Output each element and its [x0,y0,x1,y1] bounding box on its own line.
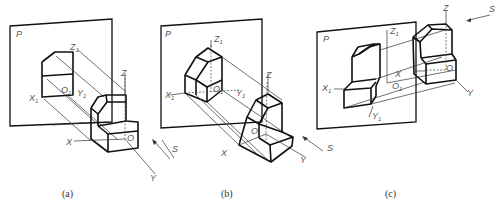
panel-b: P Z1 O1 Y1 X1 [161,19,333,165]
svg-text:S: S [489,4,495,14]
svg-text:Z1: Z1 [389,26,399,37]
caption-b: (b) [221,188,233,199]
svg-text:X1: X1 [28,93,38,104]
svg-text:O: O [446,63,453,73]
caption-c: (c) [385,188,396,199]
svg-text:Y1: Y1 [77,88,86,99]
direction-arrow-b [305,138,323,151]
projection-plane-b [161,19,262,128]
svg-text:O: O [127,133,134,143]
y-axis-a [125,139,155,174]
svg-text:Z1: Z1 [69,42,79,53]
plane-label-a: P [16,29,22,39]
direction-arrow-a [154,141,170,159]
svg-text:X1: X1 [164,90,174,101]
svg-text:X: X [220,148,228,158]
x-axis-a [74,139,125,141]
panel-c: P Z1 O1 Y1 X1 [317,3,495,129]
svg-text:Y1: Y1 [372,111,381,122]
object-3d-b [239,82,293,162]
svg-text:Z: Z [442,3,449,13]
projection-diagram: P Z1 O1 Y1 X1 [0,0,498,207]
svg-text:S: S [172,144,178,154]
svg-text:Z: Z [265,70,272,80]
svg-text:P: P [323,34,329,44]
svg-text:Z: Z [120,68,127,78]
svg-text:Z1: Z1 [213,34,223,45]
svg-text:X: X [394,69,402,79]
panel-a: P Z1 O1 Y1 X1 [10,19,170,183]
svg-text:O: O [251,126,258,136]
svg-text:Y1: Y1 [236,88,245,99]
projection-plane-c [317,22,416,129]
svg-text:X: X [65,137,73,147]
svg-text:Y: Y [467,88,474,98]
svg-text:Y: Y [300,155,307,165]
projection-plane-a [10,19,112,126]
svg-text:Y: Y [150,173,157,183]
y-axis-b [266,134,305,157]
svg-text:X1: X1 [321,83,331,94]
svg-text:S: S [327,143,333,153]
svg-text:O1: O1 [392,81,402,92]
caption-a: (a) [62,188,73,199]
direction-arrow-c [469,15,490,20]
svg-text:P: P [165,29,171,39]
